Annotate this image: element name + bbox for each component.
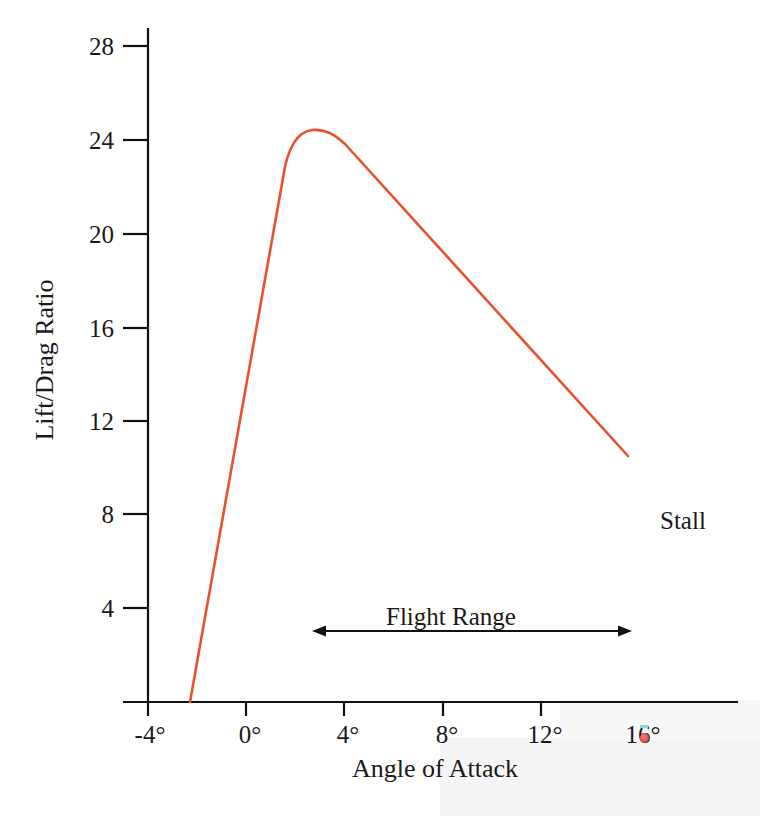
x-tick-label: 4° [337, 722, 360, 747]
x-tick-label: 8° [436, 722, 459, 747]
y-axis-ticks [123, 46, 148, 608]
x-tick-label: 12° [528, 722, 563, 747]
stall-label: Stall [660, 508, 706, 533]
flight-range-label: Flight Range [386, 604, 516, 629]
y-tick-label: 28 [54, 34, 114, 59]
x-tick-label: 0° [239, 722, 262, 747]
y-axis-title: Lift/Drag Ratio [32, 279, 58, 440]
x-tick-label: -4° [135, 722, 166, 747]
y-tick-label: 20 [54, 222, 114, 247]
scan-artifact [640, 725, 648, 728]
y-tick-label: 4 [54, 596, 114, 621]
y-tick-label: 24 [54, 128, 114, 153]
y-tick-label: 8 [54, 502, 114, 527]
x-axis-ticks [148, 702, 541, 716]
scan-artifact [640, 733, 649, 743]
chart-canvas [0, 0, 760, 816]
y-tick-label: 16 [54, 316, 114, 341]
y-tick-label: 12 [54, 409, 114, 434]
x-axis-title: Angle of Attack [352, 756, 518, 782]
